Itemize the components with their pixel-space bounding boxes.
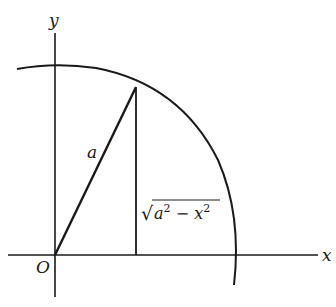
- x-axis-label: x: [322, 245, 332, 265]
- diagram-svg: y x O a √ a2 − x2: [0, 0, 336, 307]
- minus-sign: −: [171, 204, 195, 223]
- y-axis-label: y: [48, 10, 59, 30]
- quarter-circle-diagram: y x O a √ a2 − x2: [0, 0, 336, 307]
- radical-sign: √: [141, 202, 154, 224]
- circle-arc: [17, 65, 236, 285]
- exponent-2: 2: [203, 202, 210, 215]
- radius-segment: [55, 87, 136, 255]
- origin-label: O: [36, 257, 50, 277]
- exponent-1: 2: [164, 202, 171, 215]
- svg-text:a2 − x2: a2 − x2: [154, 202, 210, 223]
- radicand-x: x: [194, 204, 203, 223]
- radicand-a: a: [154, 204, 164, 223]
- radius-label: a: [87, 142, 97, 162]
- height-label: √ a2 − x2: [141, 200, 220, 224]
